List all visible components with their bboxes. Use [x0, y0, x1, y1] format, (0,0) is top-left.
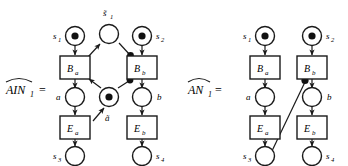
transition-Bb-label: B: [134, 63, 140, 74]
transition-Ea-label: E: [66, 123, 73, 134]
place-a-tilde-label: ã: [105, 113, 110, 123]
place-r-s3-subscript: 3: [247, 156, 252, 163]
transition-r-Bb-label: B: [304, 63, 310, 74]
place-s4[interactable]: s 4: [133, 147, 166, 166]
right-net-hat-icon: [188, 79, 210, 83]
transition-r-Ba-subscript: a: [265, 69, 269, 77]
place-a-tilde[interactable]: ã: [100, 88, 119, 124]
place-r-s1-subscript: 1: [248, 36, 251, 43]
place-r-b-label: b: [327, 92, 332, 102]
place-s2-label: s: [156, 31, 160, 41]
place-r-s2-label: s: [326, 31, 330, 41]
place-s1[interactable]: s 1: [53, 27, 85, 46]
transition-Ea[interactable]: E a: [60, 116, 90, 139]
place-a-circle[interactable]: [66, 88, 85, 107]
transition-Bb[interactable]: B b: [127, 56, 157, 79]
place-r-s3[interactable]: s 3: [243, 147, 275, 166]
arc-Ea-atilde: [93, 108, 104, 121]
place-s1-tilde-label: s̃: [103, 8, 107, 18]
place-s3[interactable]: s 3: [53, 147, 85, 166]
place-b-label: b: [157, 92, 162, 102]
right-net: AN 1 =: [187, 27, 335, 166]
left-net-equals: =: [39, 83, 46, 97]
transition-Ba-subscript: a: [75, 69, 79, 77]
transition-r-Ba[interactable]: B a: [250, 56, 280, 79]
place-s2-subscript: 2: [161, 36, 165, 43]
place-r-s3-label: s: [243, 151, 247, 161]
transition-r-Eb-subscript: b: [312, 129, 316, 137]
place-s1-tilde-subscript: 1: [110, 13, 113, 20]
place-s3-circle[interactable]: [66, 147, 85, 166]
place-r-s1-token: [261, 32, 268, 39]
right-net-name: AN: [187, 83, 204, 97]
place-a-tilde-token: [105, 93, 112, 100]
place-r-s4-subscript: 4: [331, 156, 335, 163]
transition-r-Bb-subscript: b: [312, 69, 316, 77]
transition-r-Ea-label: E: [256, 123, 263, 134]
transition-Bb-subscript: b: [142, 69, 146, 77]
place-r-a[interactable]: a: [246, 88, 275, 107]
transition-Ea-subscript: a: [75, 129, 79, 137]
place-s3-subscript: 3: [57, 156, 62, 163]
arc-Ba-s1tilde: [88, 44, 100, 57]
right-net-label: AN 1 =: [187, 79, 222, 100]
left-net-label: AIN 1 =: [5, 79, 46, 100]
place-r-s2-subscript: 2: [331, 36, 335, 43]
place-r-s4[interactable]: s 4: [303, 147, 336, 166]
place-r-s1[interactable]: s 1: [243, 27, 275, 46]
place-s2-token: [138, 32, 145, 39]
place-a-label: a: [56, 92, 61, 102]
place-b[interactable]: b: [133, 88, 163, 107]
transition-r-Eb-label: E: [303, 123, 310, 134]
place-r-s2[interactable]: s 2: [303, 27, 336, 46]
left-net: AIN 1 =: [5, 8, 165, 166]
figure-canvas: AIN 1 =: [0, 0, 348, 166]
place-a[interactable]: a: [56, 88, 85, 107]
left-net-name: AIN: [5, 83, 26, 97]
place-s1-subscript: 1: [58, 36, 61, 43]
transition-Eb[interactable]: E b: [127, 116, 157, 139]
place-r-s2-token: [308, 32, 315, 39]
right-net-equals: =: [215, 83, 222, 97]
place-r-s3-circle[interactable]: [256, 147, 275, 166]
place-s2[interactable]: s 2: [133, 27, 166, 46]
left-net-places: s 1 s̃ 1 s 2 a: [53, 8, 165, 166]
place-r-s4-label: s: [326, 151, 330, 161]
place-s1-token: [71, 32, 78, 39]
left-net-name-subscript: 1: [30, 90, 34, 99]
place-r-b-circle[interactable]: [303, 88, 322, 107]
transition-Ba[interactable]: B a: [60, 56, 90, 79]
right-net-places: s 1 s 2 a b s: [243, 27, 335, 166]
transition-r-Ea-subscript: a: [265, 129, 269, 137]
right-net-name-subscript: 1: [208, 90, 212, 99]
place-s1-label: s: [53, 31, 57, 41]
transition-r-Ba-label: B: [257, 63, 263, 74]
place-s4-label: s: [156, 151, 160, 161]
place-r-s4-circle[interactable]: [303, 147, 322, 166]
place-r-s1-label: s: [243, 31, 247, 41]
transition-Eb-subscript: b: [142, 129, 146, 137]
place-s3-label: s: [53, 151, 57, 161]
left-net-hat-icon: [6, 79, 32, 83]
place-s4-subscript: 4: [161, 156, 165, 163]
transition-Ba-label: B: [67, 63, 73, 74]
place-b-circle[interactable]: [133, 88, 152, 107]
place-s1-tilde[interactable]: s̃ 1: [100, 8, 119, 44]
place-s1-tilde-circle[interactable]: [100, 25, 119, 44]
place-r-a-circle[interactable]: [256, 88, 275, 107]
transition-r-Ea[interactable]: E a: [250, 116, 280, 139]
transition-r-Eb[interactable]: E b: [297, 116, 327, 139]
arc-atilde-Ba: [89, 79, 101, 88]
place-r-a-label: a: [246, 92, 251, 102]
place-r-b[interactable]: b: [303, 88, 333, 107]
place-s4-circle[interactable]: [133, 147, 152, 166]
transition-Eb-label: E: [133, 123, 140, 134]
petri-net-figure: AIN 1 =: [0, 0, 348, 166]
transition-r-Bb[interactable]: B b: [297, 56, 327, 79]
